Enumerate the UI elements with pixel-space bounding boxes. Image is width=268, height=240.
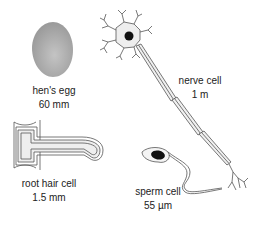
nerve-cell-label: nerve cell 1 m <box>170 74 230 102</box>
hens-egg-size: 60 mm <box>27 98 81 112</box>
hens-egg-name: hen's egg <box>27 84 81 98</box>
root-hair-cell-size: 1.5 mm <box>14 191 84 205</box>
root-hair-cell-illustration <box>14 120 103 170</box>
hens-egg-label: hen's egg 60 mm <box>27 84 81 112</box>
nerve-cell-size: 1 m <box>170 88 230 102</box>
sperm-cell-size: 55 µm <box>128 199 188 213</box>
root-hair-cell-label: root hair cell 1.5 mm <box>14 177 84 205</box>
egg-illustration <box>32 22 73 77</box>
nerve-cell-name: nerve cell <box>170 74 230 88</box>
sperm-cell-name: sperm cell <box>128 185 188 199</box>
sperm-cell-label: sperm cell 55 µm <box>128 185 188 213</box>
root-hair-cell-name: root hair cell <box>14 177 84 191</box>
